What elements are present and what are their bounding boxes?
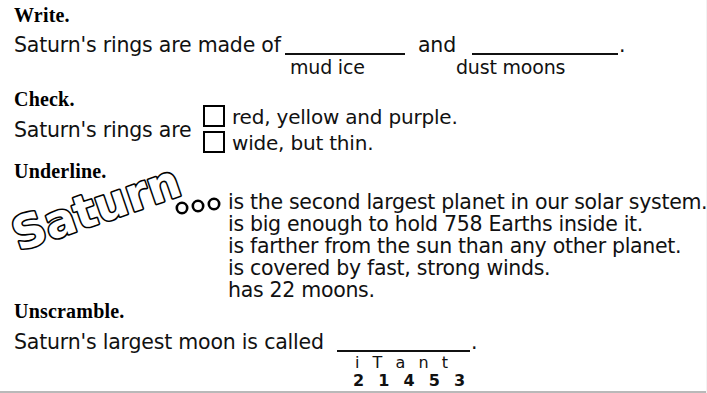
underline-fact-3[interactable]: is farther from the sun than any other p… — [228, 234, 681, 258]
write-blank-1[interactable] — [285, 53, 405, 55]
checkbox-option-1[interactable] — [203, 105, 225, 127]
section-heading-check: Check. — [14, 88, 75, 111]
write-blank-1-word-options: mud ice — [290, 56, 365, 78]
write-period: . — [619, 33, 625, 57]
section-heading-unscramble: Unscramble. — [14, 300, 125, 323]
unscramble-period: . — [471, 330, 477, 354]
write-prompt-text: Saturn's rings are made of — [14, 33, 281, 57]
underline-fact-4[interactable]: is covered by fast, strong winds. — [228, 256, 550, 280]
section-heading-write: Write. — [14, 4, 70, 27]
checkbox-option-2-label: wide, but thin. — [232, 131, 373, 155]
section-heading-underline: Underline. — [14, 160, 107, 183]
write-blank-2[interactable] — [472, 53, 618, 55]
checkbox-option-2[interactable] — [203, 131, 225, 153]
underline-fact-5[interactable]: has 22 moons. — [228, 278, 375, 302]
unscramble-blank[interactable] — [337, 350, 470, 352]
scrambled-letters: i T a n t — [355, 353, 449, 372]
underline-fact-2[interactable]: is big enough to hold 758 Earths inside … — [228, 212, 643, 236]
saturn-wordart-decoration: Saturn — [2, 186, 232, 264]
unscramble-prompt-text: Saturn's largest moon is called — [14, 330, 324, 354]
write-conjunction-and: and — [418, 33, 456, 57]
scrambled-order-numbers: 2 1 4 5 3 — [353, 371, 466, 390]
worksheet-page: Write. Saturn's rings are made of and . … — [0, 0, 707, 393]
checkbox-option-1-label: red, yellow and purple. — [232, 105, 458, 129]
write-blank-2-word-options: dust moons — [456, 56, 565, 78]
check-prompt-text: Saturn's rings are — [14, 118, 191, 142]
underline-fact-1[interactable]: is the second largest planet in our sola… — [228, 190, 707, 214]
saturn-wordart-ellipsis-dots — [177, 199, 219, 213]
